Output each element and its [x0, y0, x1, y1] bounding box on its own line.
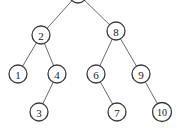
- tree-node-7: 7: [108, 103, 126, 121]
- svg-text:4: 4: [54, 69, 60, 81]
- binary-tree-diagram: 2 8 1 4 6 9 3 7: [0, 0, 177, 134]
- tree-node-9: 9: [132, 65, 150, 83]
- svg-text:2: 2: [38, 30, 44, 42]
- svg-text:6: 6: [93, 69, 99, 81]
- svg-text:3: 3: [36, 107, 42, 119]
- svg-text:7: 7: [114, 107, 120, 119]
- nodes: 2 8 1 4 6 9 3 7: [9, 0, 172, 122]
- svg-text:9: 9: [138, 69, 144, 81]
- edges: [18, 0, 162, 112]
- tree-node-3: 3: [30, 103, 48, 121]
- svg-text:8: 8: [113, 26, 119, 38]
- svg-text:10: 10: [157, 107, 167, 118]
- tree-node-8: 8: [107, 22, 125, 40]
- tree-node-6: 6: [87, 65, 105, 83]
- tree-node-2: 2: [32, 26, 50, 44]
- tree-node-10: 10: [153, 103, 172, 122]
- tree-node-1: 1: [9, 65, 27, 83]
- svg-text:1: 1: [15, 69, 21, 81]
- tree-node-4: 4: [48, 65, 66, 83]
